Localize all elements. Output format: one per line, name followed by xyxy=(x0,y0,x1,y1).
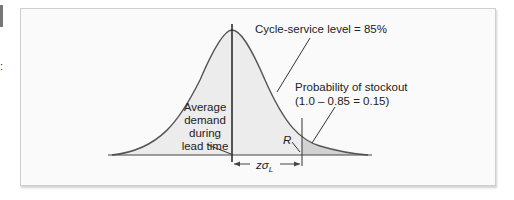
average-demand-label-2: demand xyxy=(180,113,230,127)
arrowhead-left-icon xyxy=(234,162,240,167)
stockout-probability-label: Probability of stockout xyxy=(295,80,408,94)
z-sigma-subscript: L xyxy=(269,165,273,174)
reorder-point-label: R xyxy=(283,133,291,147)
stockout-pointer xyxy=(312,107,335,143)
z-sigma-text: zσ xyxy=(256,159,269,171)
average-demand-label-1: Average xyxy=(180,100,230,114)
cycle-service-level-label: Cycle-service level = 85% xyxy=(255,22,387,36)
average-demand-label-4: lead time xyxy=(175,139,235,153)
stockout-area-fill xyxy=(302,139,368,155)
average-demand-label-3: during xyxy=(180,126,230,140)
stockout-probability-formula: (1.0 – 0.85 = 0.15) xyxy=(295,94,389,108)
z-sigma-label: zσL xyxy=(256,158,273,177)
arrowhead-right-icon xyxy=(294,162,300,167)
